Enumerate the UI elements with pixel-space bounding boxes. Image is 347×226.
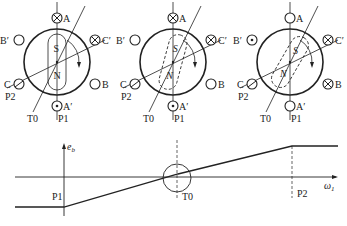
a-conductor-cross-icon [52,13,62,23]
b-prime-label: B′ [116,35,125,46]
rotation-arrow-head-icon [193,62,197,68]
emf-curve [15,146,338,207]
c-prime-conductor-cross-icon [206,35,216,45]
b-prime-conductor [130,35,140,45]
a-prime-label: A′ [296,101,305,112]
p2-label: P2 [5,91,16,102]
rotation-arrow-head-icon [310,62,314,68]
pole-s-label: S [54,43,60,54]
p2-label: P2 [238,91,249,102]
a-prime-label: A′ [179,101,188,112]
x-axis-arrow-icon [332,175,338,179]
c-label: C [4,79,11,90]
pole-s-label: S [293,45,298,56]
y-axis-label: eb [67,141,75,154]
a-prime-label: A′ [63,101,72,112]
diagram-canvas: SNAA′B′BC′CP2T0P1SNAA′B′BC′CP2T0P1SNAA′B… [0,0,347,226]
c-prime-conductor-cross-icon [323,35,333,45]
b-conductor-cross-icon [323,79,333,89]
y-axis-arrow-icon [62,143,66,149]
b-prime-conductor [14,35,24,45]
p2-label: P2 [297,188,308,199]
c-label: C [120,79,127,90]
motor-panel-2: SNAA′B′BC′CP2T0P1 [116,2,227,124]
a-label: A [179,13,187,24]
a-prime-conductor-dot-icon [52,101,62,111]
p1-label: P1 [174,113,185,124]
rotation-arrow [67,40,79,64]
b-prime-label: B′ [233,35,242,46]
p1-label: P1 [291,113,302,124]
a-prime-conductor [285,101,295,111]
b-prime-conductor-dot-icon [247,35,257,45]
p1-label: P1 [58,113,69,124]
motor-panel-1: SNAA′B′BC′CP2T0P1 [0,2,111,124]
p2-label: P2 [121,91,132,102]
x-axis-label: ω1 [324,180,335,193]
b-label: B [335,79,342,90]
motor-panels: SNAA′B′BC′CP2T0P1SNAA′B′BC′CP2T0P1SNAA′B… [0,2,344,124]
c-prime-label: C′ [102,35,111,46]
t0-label: T0 [260,113,271,124]
b-label: B [102,79,109,90]
pole-n-label: N [54,70,61,81]
c-label: C [237,79,244,90]
pole-n-label: N [165,70,174,81]
c-prime-conductor-cross-icon [90,35,100,45]
t0-label: T0 [182,191,193,202]
b-prime-label: B′ [0,35,9,46]
t0-label: T0 [27,113,38,124]
a-label: A [63,13,71,24]
b-conductor [90,79,100,89]
back-emf-graph: eb ω1 T0 P2 P1 [15,140,338,216]
a-conductor [285,13,295,23]
t0-label: T0 [143,113,154,124]
b-label: B [218,79,225,90]
c-prime-label: C′ [218,35,227,46]
pole-n-label: N [279,68,288,79]
a-conductor-cross-icon [168,13,178,23]
c-prime-label: C′ [335,35,344,46]
rotation-arrow-head-icon [77,62,81,68]
a-label: A [296,13,304,24]
a-prime-conductor-dot-icon [168,101,178,111]
p1-label: P1 [52,191,63,202]
pole-s-label: S [173,43,178,54]
motor-panel-3: SNAA′B′BC′CP2T0P1 [233,2,344,124]
b-conductor [206,79,216,89]
